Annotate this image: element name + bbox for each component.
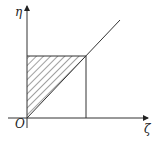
diagram-canvas: η O ζ (0, 0, 163, 145)
eta-axis-label: η (15, 5, 23, 19)
origin-label: O (15, 117, 25, 131)
zeta-axis-label: ζ (144, 122, 152, 136)
